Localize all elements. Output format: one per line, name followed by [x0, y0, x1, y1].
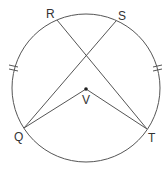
label-r: R [46, 7, 55, 21]
center-point-v [84, 87, 88, 91]
label-t: T [148, 131, 156, 145]
circle-diagram: R S Q T V [0, 0, 167, 169]
label-q: Q [14, 130, 23, 144]
segment-vt [86, 89, 147, 129]
label-v: V [82, 93, 90, 107]
tick-mark-left-icon [9, 65, 18, 71]
segment-qv [24, 89, 86, 128]
label-s: S [118, 9, 126, 23]
